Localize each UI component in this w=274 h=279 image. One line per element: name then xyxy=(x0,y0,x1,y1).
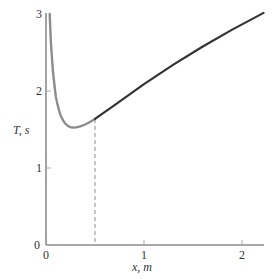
chart: 0 1 2 3 0 1 2 T, s x, m xyxy=(0,0,274,279)
x-tick-label-2: 2 xyxy=(239,248,245,262)
x-tick-label-0: 0 xyxy=(43,248,49,262)
curve-gray-segment xyxy=(50,14,95,128)
x-axis-label: x, m xyxy=(131,260,152,274)
y-tick-label-2: 2 xyxy=(36,84,42,98)
y-tick-label-0: 0 xyxy=(34,238,40,252)
y-tick-label-1: 1 xyxy=(36,161,42,175)
y-tick-label-3: 3 xyxy=(36,7,42,21)
curve-black-segment xyxy=(95,13,264,119)
y-axis-label: T, s xyxy=(13,123,30,137)
